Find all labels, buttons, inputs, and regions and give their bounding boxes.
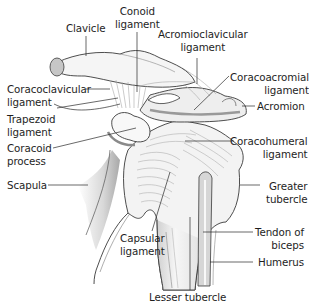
label-trapezoid-ligament: Trapezoid ligament bbox=[7, 113, 55, 138]
label-coracoid-process: Coracoid process bbox=[7, 142, 52, 167]
label-conoid-ligament: Conoid ligament bbox=[115, 5, 160, 30]
label-acromioclavicular-ligament: Acromioclavicular ligament bbox=[158, 28, 248, 53]
coracoid-shape bbox=[108, 113, 150, 146]
scapula-shape bbox=[78, 150, 131, 284]
label-coracohumeral-ligament: Coracohumeral ligament bbox=[230, 135, 308, 160]
label-acromion: Acromion bbox=[257, 100, 305, 113]
label-greater-tubercle: Greater tubercle bbox=[266, 180, 308, 205]
label-scapula: Scapula bbox=[7, 179, 47, 192]
humerus-shape bbox=[124, 120, 244, 290]
shoulder-ligaments-diagram: Clavicle Conoid ligament Acromioclavicul… bbox=[0, 0, 309, 305]
label-tendon-of-biceps: Tendon of biceps bbox=[255, 226, 304, 251]
label-humerus: Humerus bbox=[258, 256, 304, 269]
label-coracoclavicular-ligament: Coracoclavicular ligament bbox=[7, 83, 91, 108]
label-clavicle: Clavicle bbox=[66, 22, 105, 35]
label-capsular-ligament: Capsular ligament bbox=[120, 232, 165, 257]
clavicle-shape bbox=[50, 51, 195, 88]
label-lesser-tubercle: Lesser tubercle bbox=[149, 291, 226, 304]
label-coracoacromial-ligament: Coracoacromial ligament bbox=[230, 71, 309, 96]
